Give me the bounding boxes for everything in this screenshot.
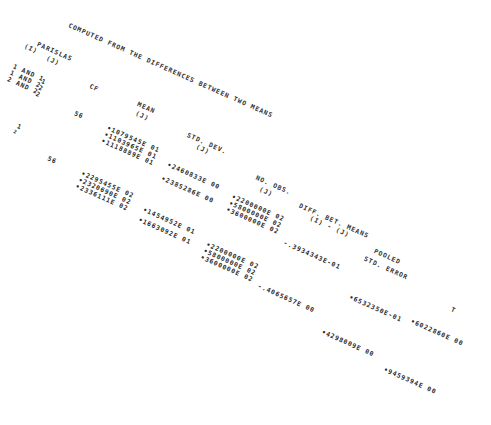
group2-diff: -.4065657E 00: [256, 283, 315, 314]
group1-t: •6022860E 00: [409, 318, 464, 348]
group1-n-obs: •2200000E 02 •5800000E 02 •3600000E 02: [225, 194, 286, 236]
group2-means: •2295455E 02 •2320690E 02 •2336111E 02: [74, 170, 135, 212]
group2-std-devs: •1454952E 01 •1663092E 01: [137, 207, 196, 247]
header-cf: CF: [88, 83, 100, 93]
group2-pooled-se: •4298009E 00: [320, 329, 375, 359]
group2-n-obs: •2200000E 02 •5800000E 02 •3600000E 02: [199, 241, 260, 283]
group1-i-sub: 2: [12, 128, 18, 136]
group1-pooled-se: •6532350E-01: [348, 294, 403, 324]
group1-df: 56: [73, 110, 85, 120]
group1-std-devs: •2460833E 00 •2385286E 00: [160, 162, 221, 205]
group2-t: •9459394E 00: [382, 366, 437, 396]
pair-j-value: 2: [34, 91, 41, 99]
document-title: COMPUTED FROM THE DIFFERENCES BETWEEN TW…: [67, 22, 274, 119]
group1-diff: -.3934343E-01: [282, 240, 341, 271]
header-t: T: [450, 307, 457, 315]
rotated-printout-sheet: COMPUTED FROM THE DIFFERENCES BETWEEN TW…: [0, 0, 491, 425]
group1-means: •1079545E 01 •1103965E 01 •1118889E 01: [100, 125, 161, 167]
group2-df: 56: [46, 155, 58, 165]
